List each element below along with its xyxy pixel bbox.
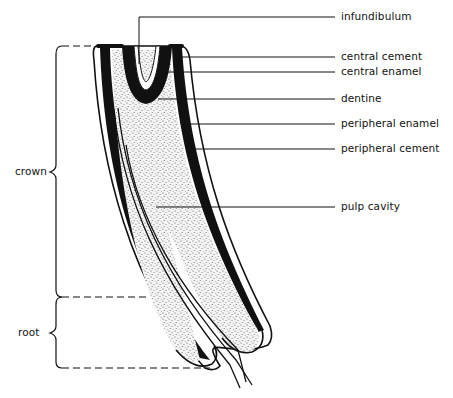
label-peripheral-enamel: peripheral enamel — [341, 117, 439, 129]
label-peripheral-cement: peripheral cement — [341, 142, 440, 154]
tooth-body — [93, 46, 271, 370]
label-root: root — [18, 326, 39, 338]
label-central-cement: central cement — [341, 50, 422, 62]
label-pulp-cavity: pulp cavity — [341, 200, 400, 212]
label-dentine: dentine — [341, 92, 382, 104]
label-crown: crown — [15, 165, 47, 177]
label-central-enamel: central enamel — [341, 65, 422, 77]
label-infundibulum: infundibulum — [341, 10, 411, 22]
